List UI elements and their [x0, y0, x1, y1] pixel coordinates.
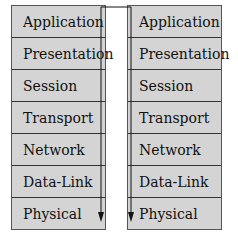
left-osi-stack: Application Presentation Session Transpo…: [11, 5, 106, 230]
right-layer-presentation: Presentation: [128, 38, 221, 70]
left-layer-network: Network: [12, 134, 105, 166]
left-layer-session: Session: [12, 70, 105, 102]
right-layer-network: Network: [128, 134, 221, 166]
left-layer-transport: Transport: [12, 102, 105, 134]
left-layer-data-link: Data-Link: [12, 166, 105, 198]
left-layer-physical: Physical: [12, 198, 105, 229]
right-osi-stack: Application Presentation Session Transpo…: [127, 5, 222, 230]
right-layer-data-link: Data-Link: [128, 166, 221, 198]
left-layer-presentation: Presentation: [12, 38, 105, 70]
right-layer-session: Session: [128, 70, 221, 102]
right-layer-physical: Physical: [128, 198, 221, 229]
left-layer-application: Application: [12, 6, 105, 38]
right-layer-application: Application: [128, 6, 221, 38]
right-layer-transport: Transport: [128, 102, 221, 134]
